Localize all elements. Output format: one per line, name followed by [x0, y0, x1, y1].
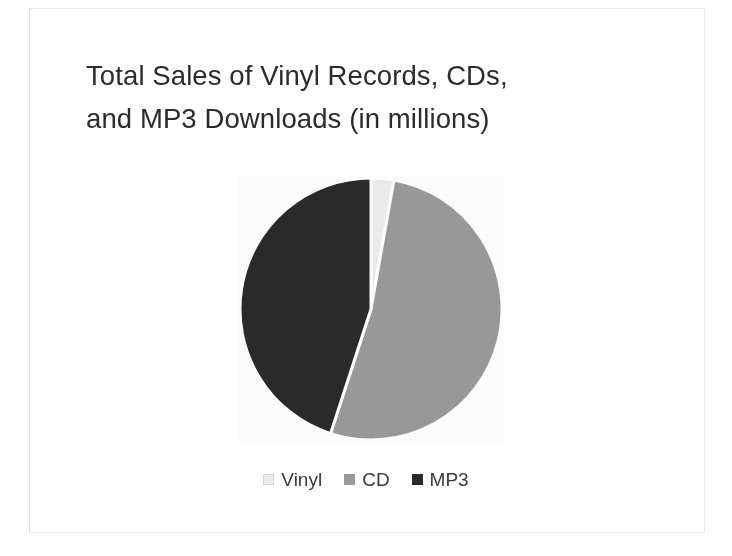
legend-item-cd[interactable]: CD: [344, 470, 389, 489]
legend-swatch-icon-cd: [344, 474, 355, 485]
legend-item-mp3[interactable]: MP3: [412, 470, 469, 489]
pie-plot-area: [238, 176, 504, 442]
pie-svg: [238, 176, 504, 442]
chart-title-line-2: and MP3 Downloads (in millions): [86, 97, 646, 140]
legend-label: Vinyl: [281, 470, 322, 489]
slide-canvas: Total Sales of Vinyl Records, CDs, and M…: [0, 0, 732, 556]
chart-title: Total Sales of Vinyl Records, CDs, and M…: [86, 54, 646, 140]
legend-swatch-icon-mp3: [412, 474, 423, 485]
legend-item-vinyl[interactable]: Vinyl: [263, 470, 322, 489]
legend-swatch-icon-vinyl: [263, 474, 274, 485]
pie-chart: Total Sales of Vinyl Records, CDs, and M…: [0, 0, 732, 556]
pie-slice-group: [240, 178, 502, 440]
chart-legend: VinylCDMP3: [0, 470, 732, 489]
legend-label: CD: [362, 470, 389, 489]
legend-label: MP3: [430, 470, 469, 489]
chart-title-line-1: Total Sales of Vinyl Records, CDs,: [86, 54, 646, 97]
